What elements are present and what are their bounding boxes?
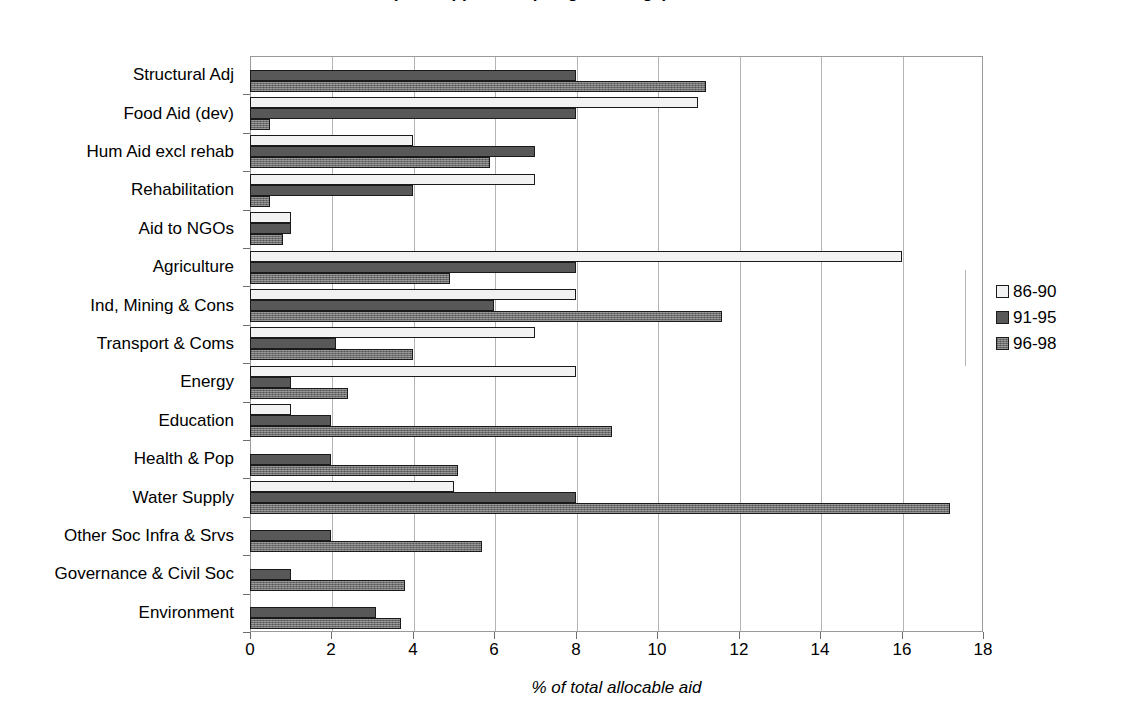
bar: [250, 185, 413, 196]
bar: [250, 618, 401, 629]
bar: [250, 541, 482, 552]
bar: [250, 108, 576, 119]
x-axis-title: % of total allocable aid: [250, 678, 983, 698]
bar-group: [250, 440, 983, 478]
bar: [250, 135, 413, 146]
y-axis-tick: [243, 555, 250, 556]
y-axis-label: Environment: [139, 604, 234, 621]
bar: [250, 388, 348, 399]
y-axis-label: Water Supply: [133, 489, 234, 506]
bar-group: [250, 517, 983, 555]
y-axis-tick: [243, 632, 250, 633]
x-axis-tick: [983, 632, 984, 639]
bar: [250, 580, 405, 591]
bar-group: [250, 210, 983, 248]
y-axis-tick: [243, 478, 250, 479]
x-axis-tick-label: 10: [648, 641, 667, 659]
bar: [250, 70, 576, 81]
y-axis-label: Hum Aid excl rehab: [87, 143, 234, 160]
y-axis-tick: [243, 325, 250, 326]
bar-chart: (title clipped at top edge of image) Str…: [0, 0, 1124, 724]
bar: [250, 234, 283, 245]
bar: [250, 223, 291, 234]
chart-title: (title clipped at top edge of image): [150, 0, 910, 3]
bar-group: [250, 286, 983, 324]
bar: [250, 492, 576, 503]
x-axis: 024681012141618: [250, 632, 983, 672]
y-axis-label: Agriculture: [153, 258, 234, 275]
bar-group: [250, 478, 983, 516]
y-axis-label: Education: [158, 412, 234, 429]
bar: [250, 349, 413, 360]
y-axis-label: Other Soc Infra & Srvs: [64, 527, 234, 544]
bar: [250, 404, 291, 415]
legend-label: 91-95: [1013, 309, 1056, 326]
bar: [250, 174, 535, 185]
bar: [250, 81, 706, 92]
bar-group: [250, 555, 983, 593]
y-axis-tick: [243, 517, 250, 518]
x-axis-tick-label: 4: [408, 641, 417, 659]
bar: [250, 212, 291, 223]
bar-group: [250, 325, 983, 363]
x-axis-tick: [413, 632, 414, 639]
bar: [250, 426, 612, 437]
y-axis-tick: [243, 248, 250, 249]
bar: [250, 607, 376, 618]
y-axis-tick: [243, 440, 250, 441]
x-axis-tick: [657, 632, 658, 639]
legend-item: 91-95: [996, 304, 1106, 330]
x-axis-tick-label: 16: [893, 641, 912, 659]
bar: [250, 262, 576, 273]
legend-swatch-96-98: [996, 337, 1009, 350]
y-axis-tick: [243, 594, 250, 595]
legend-label: 96-98: [1013, 335, 1056, 352]
y-axis-tick: [243, 210, 250, 211]
y-axis-label: Energy: [180, 373, 234, 390]
legend-divider: [965, 270, 966, 366]
bar: [250, 311, 722, 322]
chart-legend: 86-9091-9596-98: [996, 278, 1106, 356]
x-axis-tick-label: 2: [326, 641, 335, 659]
x-axis-tick: [576, 632, 577, 639]
y-axis-tick: [243, 402, 250, 403]
bar: [250, 273, 450, 284]
x-axis-tick-label: 14: [811, 641, 830, 659]
bar: [250, 327, 535, 338]
bar-group: [250, 248, 983, 286]
legend-label: 86-90: [1013, 283, 1056, 300]
bar: [250, 251, 902, 262]
bar: [250, 289, 576, 300]
bar: [250, 119, 270, 130]
y-axis-label: Aid to NGOs: [139, 220, 234, 237]
bar-group: [250, 402, 983, 440]
x-axis-tick: [494, 632, 495, 639]
y-axis-label: Governance & Civil Soc: [54, 565, 234, 582]
y-axis-label: Food Aid (dev): [123, 105, 234, 122]
bar-group: [250, 171, 983, 209]
bar: [250, 97, 698, 108]
bar: [250, 415, 331, 426]
bar-group: [250, 133, 983, 171]
x-axis-tick-label: 0: [245, 641, 254, 659]
y-axis-category-labels: Structural AdjFood Aid (dev)Hum Aid excl…: [0, 56, 244, 632]
x-axis-tick-label: 8: [571, 641, 580, 659]
y-axis-tick: [243, 286, 250, 287]
bar: [250, 300, 494, 311]
x-axis-tick: [250, 632, 251, 639]
bar: [250, 196, 270, 207]
y-axis-tick: [243, 363, 250, 364]
bar: [250, 454, 331, 465]
bar: [250, 157, 490, 168]
legend-swatch-86-90: [996, 285, 1009, 298]
bar: [250, 377, 291, 388]
bar: [250, 530, 331, 541]
y-axis-label: Rehabilitation: [131, 181, 234, 198]
y-axis-tick: [243, 94, 250, 95]
legend-item: 86-90: [996, 278, 1106, 304]
x-axis-tick: [820, 632, 821, 639]
y-axis-tick: [243, 133, 250, 134]
bar: [250, 569, 291, 580]
x-axis-tick: [902, 632, 903, 639]
bar-group: [250, 363, 983, 401]
